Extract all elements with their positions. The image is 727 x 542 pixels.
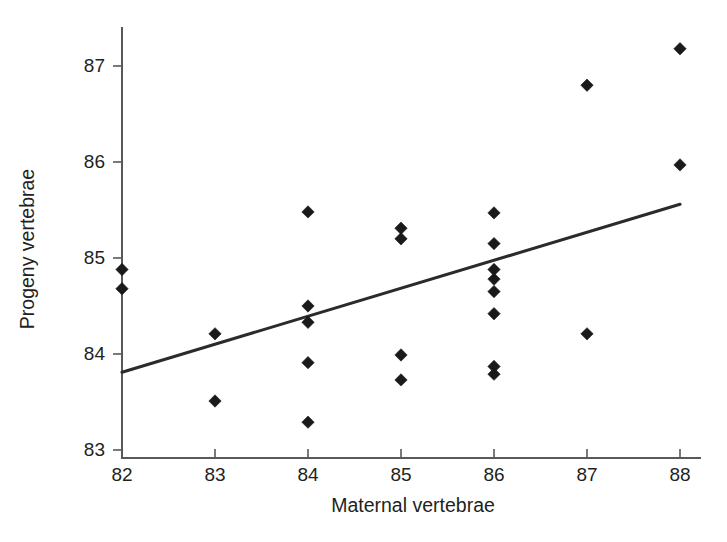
x-tick-label: 86 — [483, 464, 504, 485]
data-point-marker — [488, 273, 500, 285]
data-point-marker — [488, 285, 500, 297]
data-point-marker — [116, 283, 128, 295]
data-point-marker — [302, 300, 314, 312]
scatter-plot-figure: 8384858687 82838485868788 Maternal verte… — [0, 0, 727, 542]
data-point-marker — [302, 416, 314, 428]
x-tick-label: 82 — [111, 464, 132, 485]
data-point-marker — [674, 43, 686, 55]
y-tick-label: 85 — [84, 247, 105, 268]
x-axis-ticks: 82838485868788 — [111, 449, 690, 485]
y-tick-label: 83 — [84, 439, 105, 460]
data-point-marker — [488, 207, 500, 219]
plot-canvas: 8384858687 82838485868788 Maternal verte… — [0, 0, 727, 542]
data-point-marker — [488, 307, 500, 319]
x-tick-label: 87 — [576, 464, 597, 485]
y-axis-ticks: 8384858687 — [84, 55, 122, 460]
data-point-marker — [395, 233, 407, 245]
x-tick-label: 85 — [390, 464, 411, 485]
data-point-marker — [395, 374, 407, 386]
data-point-marker — [209, 328, 221, 340]
data-point-marker — [674, 159, 686, 171]
data-point-marker — [581, 79, 593, 91]
data-point-marker — [302, 356, 314, 368]
x-tick-label: 84 — [297, 464, 319, 485]
data-point-marker — [209, 395, 221, 407]
x-tick-label: 88 — [669, 464, 690, 485]
data-point-marker — [395, 349, 407, 361]
data-point-marker — [116, 263, 128, 275]
y-tick-label: 87 — [84, 55, 105, 76]
data-point-marker — [302, 206, 314, 218]
y-tick-label: 84 — [84, 343, 106, 364]
data-point-marker — [488, 368, 500, 380]
y-tick-label: 86 — [84, 151, 105, 172]
data-points-group — [116, 43, 686, 429]
axes — [122, 28, 700, 458]
data-point-marker — [581, 328, 593, 340]
x-axis-label: Maternal vertebrae — [331, 494, 495, 516]
data-point-marker — [488, 237, 500, 249]
x-tick-label: 83 — [204, 464, 225, 485]
y-axis-label: Progeny vertebrae — [16, 169, 38, 329]
